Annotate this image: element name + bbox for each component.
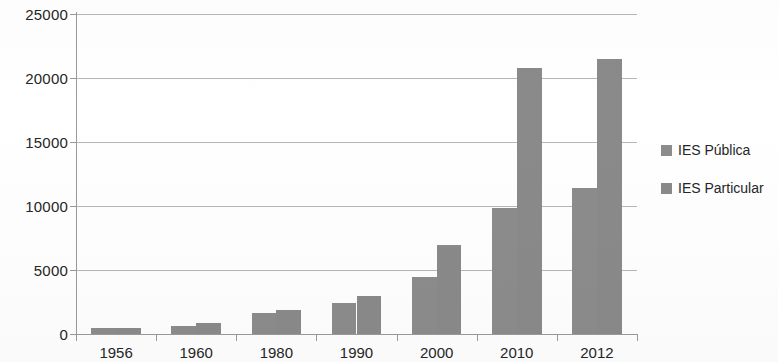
bar: [492, 208, 517, 334]
bar: [196, 323, 221, 334]
bar: [332, 303, 357, 334]
x-axis-tick-mark: [477, 334, 478, 341]
y-axis-tick-label: 20000: [25, 70, 68, 87]
bar: [412, 277, 437, 334]
x-axis-tick-label: 2000: [420, 344, 453, 361]
bar: [597, 59, 622, 334]
x-axis-tick-mark: [156, 334, 157, 341]
x-axis-line: [76, 334, 638, 335]
gridline: [76, 270, 637, 271]
x-axis-tick-mark: [637, 334, 638, 341]
x-axis-tick-label: 2010: [500, 344, 533, 361]
gridline: [76, 78, 637, 79]
legend-label-ies-publica: IES Pública: [678, 143, 750, 157]
x-axis-tick-label: 1980: [260, 344, 293, 361]
bar: [171, 326, 196, 334]
legend-item-ies-particular: IES Particular: [661, 181, 778, 195]
y-axis-tick-label: 10000: [25, 198, 68, 215]
bar: [517, 68, 542, 334]
x-axis-tick-mark: [76, 334, 77, 341]
bar: [437, 245, 462, 334]
legend-label-ies-particular: IES Particular: [678, 181, 764, 195]
y-axis-tick-label: 5000: [34, 262, 68, 279]
y-axis-line: [76, 12, 77, 336]
x-axis-labels: 1956196019801990200020102012: [76, 338, 637, 362]
x-axis-tick-mark: [397, 334, 398, 341]
x-axis-tick-label: 2012: [580, 344, 613, 361]
x-axis-tick-label: 1956: [99, 344, 132, 361]
bar: [252, 313, 277, 334]
bar: [572, 188, 597, 334]
y-axis-tick-label: 15000: [25, 134, 68, 151]
gridline: [76, 14, 637, 15]
legend-item-ies-publica: IES Pública: [661, 143, 778, 157]
bar: [357, 296, 382, 334]
x-axis-tick-mark: [557, 334, 558, 341]
chart-legend: IES Pública IES Particular: [661, 143, 778, 219]
legend-swatch-ies-particular: [661, 183, 672, 194]
x-axis-tick-mark: [236, 334, 237, 341]
bar-chart: 0500010000150002000025000 19561960198019…: [0, 0, 778, 362]
gridline: [76, 206, 637, 207]
y-axis-labels: 0500010000150002000025000: [0, 0, 68, 362]
x-axis-tick-label: 1960: [180, 344, 213, 361]
x-axis-tick-mark: [316, 334, 317, 341]
y-axis-tick-label: 25000: [25, 6, 68, 23]
gridline: [76, 142, 637, 143]
y-axis-tick-label: 0: [59, 326, 68, 343]
legend-swatch-ies-publica: [661, 145, 672, 156]
bar: [276, 310, 301, 334]
plot-area: [76, 14, 637, 334]
x-axis-tick-label: 1990: [340, 344, 373, 361]
